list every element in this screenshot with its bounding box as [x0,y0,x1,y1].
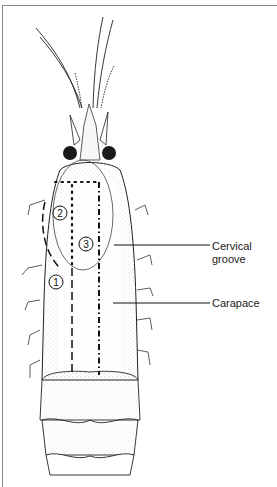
cervical-groove-label: Cervical groove [212,240,252,266]
svg-text:3: 3 [83,239,89,250]
cervical-groove-line1: Cervical [212,240,252,253]
svg-text:2: 2 [57,208,63,219]
carapace-label: Carapace [212,297,260,310]
cervical-groove-line2: groove [212,253,252,266]
left-eye [63,146,77,160]
region-marker-3: 3 [79,237,93,251]
region-marker-2: 2 [53,206,67,220]
svg-text:1: 1 [53,277,59,288]
region-marker-1: 1 [49,275,63,289]
antennae [36,17,114,108]
right-eye [102,146,116,160]
